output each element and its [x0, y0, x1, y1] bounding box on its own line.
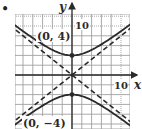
vertex-bottom-point [70, 92, 75, 97]
bullet-marker: • [1, 1, 9, 17]
y-tick-label: 10 [75, 20, 89, 31]
y-axis-label: y [58, 0, 67, 14]
grid [0, 0, 142, 129]
hyperbola-graph: • (0, 4) (0, −4) 10 10 y x [0, 0, 142, 129]
vertex-top-label: (0, 4) [37, 30, 70, 43]
x-tick-label: 10 [114, 80, 128, 91]
vertex-bottom-label: (0, −4) [23, 117, 66, 129]
x-axis-label: x [133, 78, 142, 92]
origin-point [70, 73, 74, 77]
vertex-top-point [70, 53, 75, 58]
